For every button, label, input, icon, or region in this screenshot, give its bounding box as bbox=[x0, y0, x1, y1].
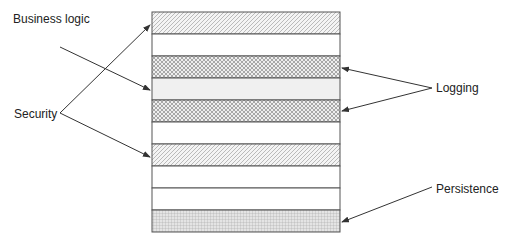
band-empty-4 bbox=[152, 188, 340, 210]
band-logging-2 bbox=[152, 100, 340, 122]
business-logic-label: Business logic bbox=[13, 12, 90, 26]
logging-label: Logging bbox=[436, 81, 479, 95]
band-security-1 bbox=[152, 12, 340, 34]
security-label: Security bbox=[14, 107, 57, 121]
arrow-logging-bottom bbox=[342, 88, 432, 111]
band-empty-2 bbox=[152, 122, 340, 144]
band-persistence bbox=[152, 210, 340, 232]
persistence-label: Persistence bbox=[436, 182, 499, 196]
cross-cutting-concerns-diagram bbox=[0, 0, 512, 250]
arrow-security-bottom bbox=[60, 113, 150, 157]
arrow-persistence bbox=[342, 187, 432, 222]
arrow-security-top bbox=[60, 25, 150, 113]
band-logging-1 bbox=[152, 56, 340, 78]
arrow-logging-top bbox=[342, 68, 432, 88]
band-security-2 bbox=[152, 144, 340, 166]
band-empty-1 bbox=[152, 34, 340, 56]
band-empty-3 bbox=[152, 166, 340, 188]
band-business-logic bbox=[152, 78, 340, 100]
layer-stack bbox=[152, 12, 340, 232]
